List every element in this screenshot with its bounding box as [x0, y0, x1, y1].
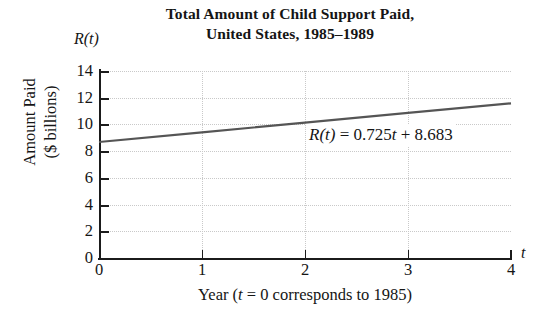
chart-figure: Total Amount of Child Support Paid, Unit…	[0, 0, 538, 314]
equation-annotation: R(t) = 0.725t + 8.683	[306, 124, 456, 146]
equation-lhs: R(t)	[309, 125, 335, 144]
data-line-layer	[0, 0, 538, 314]
equation-constant: + 8.683	[397, 125, 453, 144]
equation-operator: = 0.725	[335, 125, 391, 144]
